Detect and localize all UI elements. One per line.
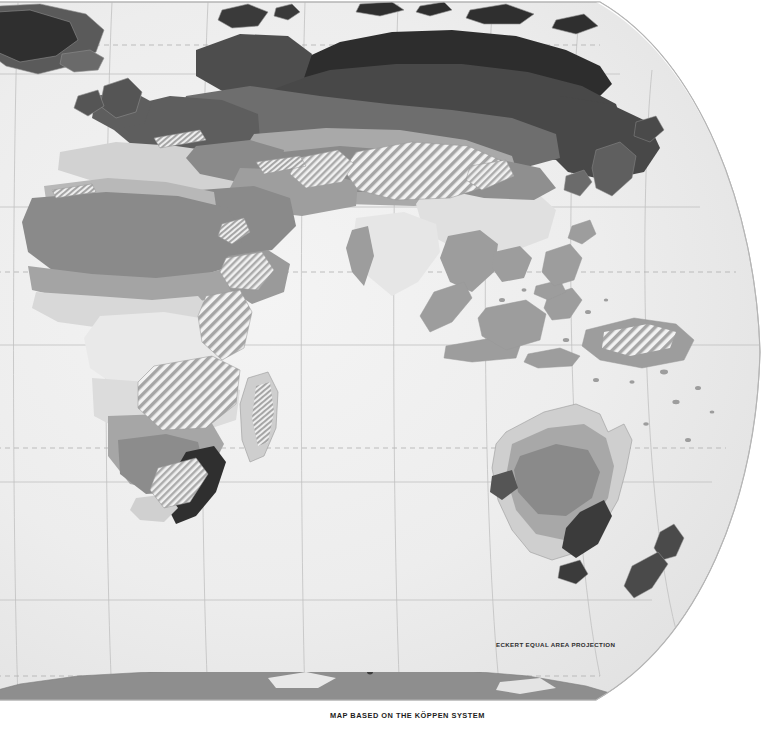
projection-label: ECKERT EQUAL AREA PROJECTION: [496, 641, 615, 648]
climate-map-container: ECKERT EQUAL AREA PROJECTION MAP BASED O…: [0, 0, 769, 729]
world-climate-map: ECKERT EQUAL AREA PROJECTION MAP BASED O…: [0, 0, 769, 729]
koppen-caption: MAP BASED ON THE KÖPPEN SYSTEM: [330, 711, 485, 720]
